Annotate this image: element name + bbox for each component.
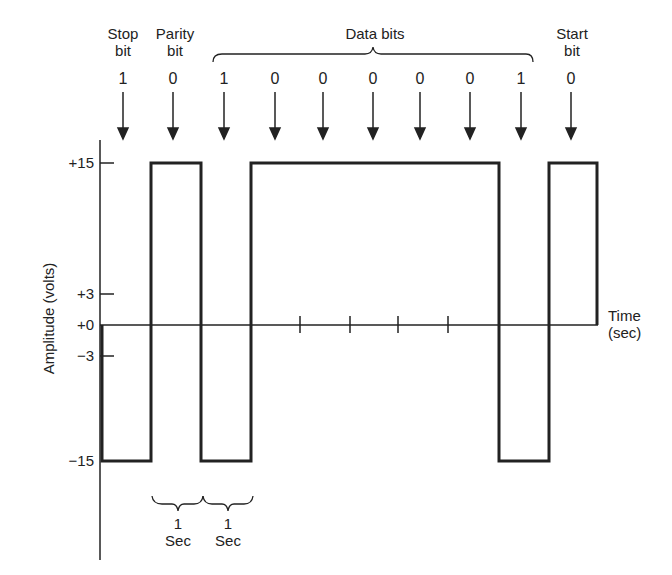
bit-value: 1	[511, 70, 531, 88]
bit-value: 0	[265, 70, 285, 88]
waveform-line	[102, 163, 597, 461]
bit-arrows	[118, 92, 576, 139]
bit-value: 1	[113, 70, 133, 88]
y-tick-label: −3	[54, 347, 94, 364]
duration-label-1: 1 Sec	[163, 515, 193, 549]
y-tick-label: +0	[54, 316, 94, 333]
bit-value: 0	[460, 70, 480, 88]
y-tick-label: −15	[54, 452, 94, 469]
y-axis-label: Amplitude (volts)	[40, 249, 57, 389]
sec-brace-2	[203, 496, 253, 511]
start-bit-label: Start bit	[547, 25, 597, 59]
x-axis-label: Time (sec)	[608, 307, 641, 341]
bit-value: 1	[214, 70, 234, 88]
bit-value: 0	[561, 70, 581, 88]
duration-label-2: 1 Sec	[213, 515, 243, 549]
parity-bit-label: Parity bit	[148, 25, 202, 59]
bit-value: 0	[163, 70, 183, 88]
bit-value: 0	[363, 70, 383, 88]
data-bits-brace	[213, 47, 533, 62]
sec-brace-1	[152, 496, 203, 511]
stop-bit-label: Stop bit	[100, 25, 146, 59]
y-tick-label: +15	[54, 154, 94, 171]
bit-value: 0	[410, 70, 430, 88]
bit-value: 0	[313, 70, 333, 88]
y-tick-label: +3	[54, 285, 94, 302]
data-bits-label: Data bits	[330, 25, 420, 42]
